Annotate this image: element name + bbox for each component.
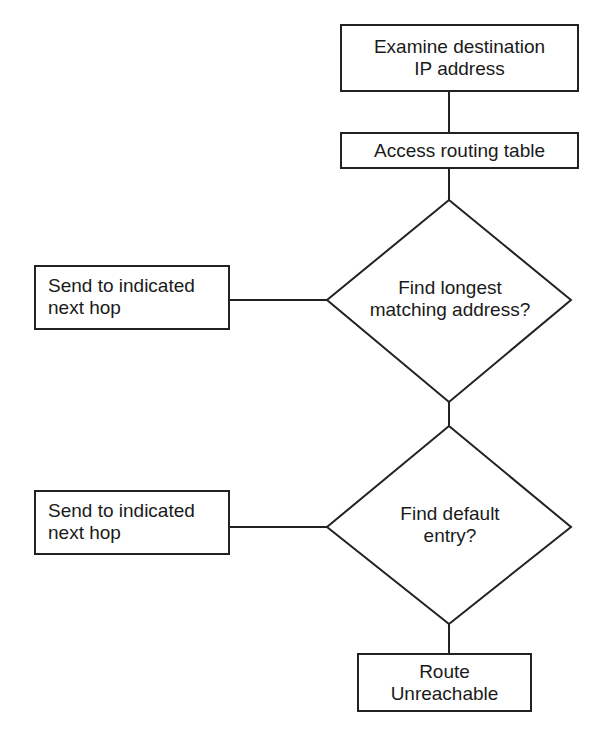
node-text: Send to indicated <box>48 275 228 297</box>
node-text: Access routing table <box>342 140 577 162</box>
node-text: Route <box>359 661 530 683</box>
node-send-next-hop-1: Send to indicated next hop <box>34 265 230 330</box>
node-text: Examine destination <box>342 36 577 58</box>
node-text: IP address <box>342 58 577 80</box>
node-send-next-hop-2: Send to indicated next hop <box>34 490 230 555</box>
node-text: next hop <box>48 522 228 544</box>
node-text: next hop <box>48 297 228 319</box>
node-text: Find longest <box>340 277 560 299</box>
flowchart-connectors <box>0 0 603 741</box>
decision-default-entry-label: Find default entry? <box>340 503 560 547</box>
node-access-routing-table: Access routing table <box>340 132 579 169</box>
node-examine-destination: Examine destination IP address <box>340 24 579 92</box>
node-text: Unreachable <box>359 683 530 705</box>
node-text: entry? <box>340 525 560 547</box>
node-text: Send to indicated <box>48 500 228 522</box>
node-route-unreachable: Route Unreachable <box>357 653 532 712</box>
node-text: matching address? <box>340 299 560 321</box>
decision-longest-match-label: Find longest matching address? <box>340 277 560 321</box>
node-text: Find default <box>340 503 560 525</box>
